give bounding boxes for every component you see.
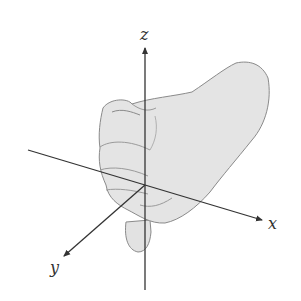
x-axis-label: x (268, 214, 277, 233)
hand-illustration (99, 62, 269, 252)
z-axis-label: z (140, 25, 148, 44)
thumb (126, 220, 152, 252)
diagram-canvas (0, 0, 301, 301)
y-axis-label: y (50, 258, 59, 277)
right-hand-rule-diagram: z x y (0, 0, 301, 301)
